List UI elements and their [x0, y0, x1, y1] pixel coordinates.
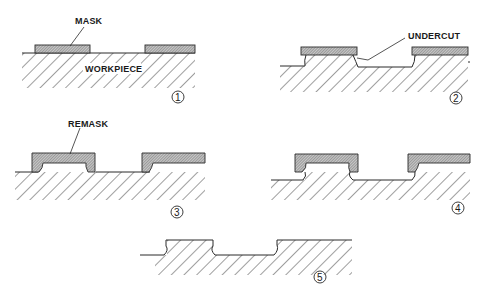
step-number-3: 3 [174, 207, 180, 218]
step-1: MASK WORKPIECE 1 [22, 16, 195, 103]
workpiece-5 [155, 240, 352, 275]
step-4: 4 [271, 154, 470, 214]
undercut-leader-line [368, 38, 405, 60]
step-number-1: 1 [175, 92, 181, 103]
workpiece-3 [15, 172, 205, 200]
process-diagram: MASK WORKPIECE 1 UNDERCUT 2 REMASK 3 4 [0, 0, 485, 302]
remask-left-3 [32, 153, 95, 172]
mask-label: MASK [75, 16, 103, 26]
remask-left-4 [295, 154, 358, 172]
step-5: 5 [140, 240, 352, 283]
workpiece-4 [271, 172, 470, 200]
undercut-leader-tail [357, 58, 368, 60]
remask-label: REMASK [68, 119, 109, 129]
workpiece-2 [280, 55, 468, 92]
mask-right-1 [145, 45, 195, 53]
remask-right-4 [408, 154, 470, 172]
undercut-label: UNDERCUT [408, 31, 460, 41]
step-number-5: 5 [317, 272, 323, 283]
step-3: REMASK 3 [15, 119, 205, 218]
mask-leader-line [70, 27, 84, 46]
remask-right-3 [142, 153, 205, 172]
mask-right-2 [412, 47, 468, 55]
step-number-2: 2 [453, 93, 459, 104]
mask-left-1 [35, 45, 90, 53]
step-2: UNDERCUT 2 [280, 31, 470, 104]
workpiece-label: WORKPIECE [85, 64, 142, 74]
remask-leader-line [70, 128, 80, 154]
mask-left-2 [301, 47, 357, 55]
step-number-4: 4 [455, 203, 461, 214]
